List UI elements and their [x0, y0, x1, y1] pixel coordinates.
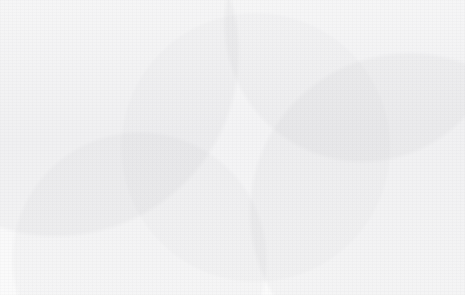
- y-axis-tick-label: 40%: [30, 110, 44, 119]
- trendlines-group: [49, 24, 441, 204]
- legend-label-0: Share of trade affected by RoW measures …: [98, 224, 321, 231]
- chart-legend: Share of trade affected by RoW measures …: [67, 221, 427, 271]
- y-axis-tick-label: 60%: [30, 65, 44, 74]
- y-axis-tick-label: 0%: [34, 200, 44, 209]
- legend-item-row-bar-light: Share of trade affected by Latin America…: [67, 233, 427, 245]
- x-axis-tick-label-2014: 2014: [217, 209, 233, 218]
- x-axis-tick-label-2017: 2017: [335, 209, 351, 218]
- legend-swatch-dotted-light-icon: [95, 264, 121, 265]
- chart-container: 0%10%20%30%40%50%60%70%80% 2010201120122…: [8, 5, 454, 282]
- x-axis-tick-label-2012: 2012: [139, 209, 155, 218]
- legend-item-row-bar-dark: Share of trade affected by RoW measures …: [67, 221, 427, 233]
- legend-label-3: Linear (Share of trade affected by Latin…: [126, 261, 394, 268]
- gridline-0%: 0%: [49, 204, 441, 205]
- x-axis-tick-label-2011: 2011: [100, 209, 115, 218]
- legend-swatch-bar-light-icon: [67, 237, 93, 243]
- legend-item-row-trend-dark: Linear (Share of trade affected by RoW m…: [95, 246, 427, 258]
- plot-area: 0%10%20%30%40%50%60%70%80% 2010201120122…: [49, 24, 441, 204]
- y-axis-tick-label: 30%: [30, 132, 44, 141]
- y-axis-tick-label: 70%: [30, 42, 44, 51]
- x-axis-tick-label-2010: 2010: [61, 209, 77, 218]
- x-axis-tick-label-2013: 2013: [178, 209, 194, 218]
- x-axis-tick-label-2016: 2016: [296, 209, 312, 218]
- legend-swatch-dotted-dark-icon: [95, 251, 121, 252]
- trendline-latam-to-row: [69, 50, 422, 86]
- x-axis-tick-label-2018: 2018: [374, 209, 390, 218]
- legend-item-row-trend-light: Linear (Share of trade affected by Latin…: [95, 258, 427, 270]
- y-axis-tick-label: 20%: [30, 155, 44, 164]
- legend-swatch-bar-dark-icon: [67, 224, 93, 230]
- x-axis-tick-label-2019: 2019: [413, 209, 429, 218]
- y-axis-tick-label: 80%: [30, 20, 44, 29]
- y-axis-tick-label: 10%: [30, 177, 44, 186]
- legend-label-1: Share of trade affected by Latin America…: [98, 236, 339, 243]
- legend-label-2: Linear (Share of trade affected by RoW m…: [126, 248, 376, 255]
- y-axis-tick-label: 50%: [30, 87, 44, 96]
- x-axis-tick-label-2015: 2015: [257, 209, 273, 218]
- trendline-row-to-latam: [69, 121, 422, 188]
